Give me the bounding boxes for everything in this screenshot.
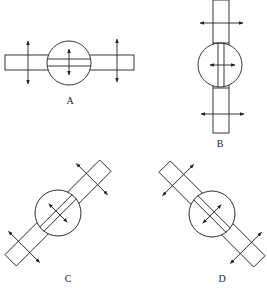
diagram-label-c: C [65,273,72,284]
diagram-label-b: B [217,138,224,149]
diagram-label-d: D [218,273,225,284]
diagram-d [148,150,267,277]
diagram-a: A [5,39,134,106]
diagram-c [0,149,122,276]
diagram-canvas: A B C D [0,0,267,295]
diagram-label-a: A [66,95,74,106]
diagram-b: B [198,0,244,149]
